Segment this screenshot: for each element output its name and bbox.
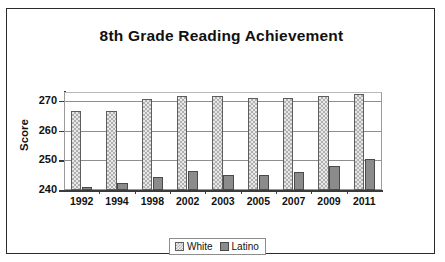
x-tick-label: 1992 <box>64 195 99 207</box>
bar-group <box>241 92 276 190</box>
x-tick-label: 1994 <box>99 195 134 207</box>
legend-label: White <box>187 241 213 252</box>
y-tick-label: 260 <box>11 124 57 136</box>
bar-latino-2002 <box>188 171 199 190</box>
bar-latino-1994 <box>117 183 128 190</box>
bar-group <box>276 92 311 190</box>
bar-group <box>205 92 240 190</box>
y-axis-tick-labels: 240250260270 <box>7 9 57 262</box>
legend-swatch-icon <box>175 242 184 251</box>
bar-latino-2007 <box>294 172 305 190</box>
x-tick-label: 1998 <box>135 195 170 207</box>
bar-group <box>135 92 170 190</box>
y-tick-mark <box>59 131 64 133</box>
chart-legend: WhiteLatino <box>169 238 266 255</box>
x-tick-mark <box>99 190 100 194</box>
legend-entry-white: White <box>175 241 213 252</box>
x-tick-label: 2011 <box>347 195 382 207</box>
bar-white-1994 <box>106 111 117 190</box>
x-tick-label: 2002 <box>170 195 205 207</box>
bar-latino-2005 <box>259 175 270 190</box>
bar-group <box>311 92 346 190</box>
x-tick-label: 2003 <box>205 195 240 207</box>
y-tick-label: 240 <box>11 183 57 195</box>
x-tick-mark <box>205 190 206 194</box>
x-tick-label: 2009 <box>311 195 346 207</box>
x-tick-mark <box>241 190 242 194</box>
chart-title: 8th Grade Reading Achievement <box>7 27 436 45</box>
x-tick-mark <box>276 190 277 194</box>
bar-latino-1998 <box>153 177 164 190</box>
bar-white-2003 <box>212 96 223 190</box>
x-axis-line <box>64 190 383 192</box>
bar-white-2009 <box>318 96 329 190</box>
bar-latino-2009 <box>329 166 340 190</box>
x-axis-tick-labels: 199219941998200220032005200720092011 <box>64 195 382 211</box>
bar-group <box>347 92 382 190</box>
y-tick-mark <box>59 101 64 103</box>
x-tick-mark <box>135 190 136 194</box>
bar-group <box>64 92 99 190</box>
bar-white-2002 <box>177 96 188 190</box>
x-tick-mark <box>170 190 171 194</box>
bar-white-1998 <box>142 99 153 190</box>
x-tick-mark <box>347 190 348 194</box>
y-tick-label: 250 <box>11 153 57 165</box>
bar-group <box>99 92 134 190</box>
y-tick-label: 270 <box>11 94 57 106</box>
bar-white-2007 <box>283 98 294 190</box>
bar-latino-2011 <box>365 159 376 190</box>
bar-white-1992 <box>71 111 82 190</box>
y-tick-mark <box>59 160 64 162</box>
legend-label: Latino <box>232 241 259 252</box>
bars-layer <box>64 92 382 190</box>
bar-white-2011 <box>354 94 365 191</box>
bar-latino-1992 <box>82 187 93 190</box>
bar-group <box>170 92 205 190</box>
bar-white-2005 <box>248 98 259 190</box>
chart-frame: 8th Grade Reading Achievement Score 2402… <box>6 8 435 254</box>
x-tick-mark <box>311 190 312 194</box>
x-tick-label: 2005 <box>241 195 276 207</box>
legend-entry-latino: Latino <box>220 241 259 252</box>
x-tick-label: 2007 <box>276 195 311 207</box>
legend-swatch-icon <box>220 242 229 251</box>
y-tick-mark <box>59 190 64 192</box>
bar-latino-2003 <box>223 175 234 190</box>
